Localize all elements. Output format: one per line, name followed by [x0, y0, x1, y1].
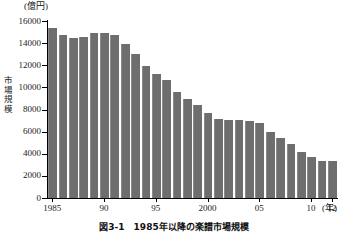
- bar: [110, 35, 119, 198]
- bar: [121, 44, 130, 198]
- bar: [297, 152, 306, 198]
- y-axis-tick-label: 2000: [23, 171, 41, 180]
- bar: [276, 138, 285, 198]
- x-axis-tick: [259, 199, 260, 202]
- bar: [152, 74, 161, 198]
- x-axis-tick: [104, 199, 105, 202]
- bar: [266, 132, 275, 198]
- y-axis-tick-label: 8000: [23, 105, 41, 114]
- x-axis-tick: [52, 199, 53, 202]
- bar: [90, 33, 99, 198]
- y-axis-tick: [42, 43, 47, 44]
- y-axis-tick: [42, 154, 47, 155]
- y-axis-tick-label: 14000: [19, 39, 42, 48]
- figure-caption: 図3-1 1985年以降の楽譜市場規模: [0, 222, 348, 232]
- x-axis-tick: [208, 199, 209, 202]
- x-axis-tick-label: 1985: [43, 203, 61, 213]
- y-axis-tick-label: 6000: [23, 127, 41, 136]
- x-axis-line: [47, 198, 338, 199]
- bar: [173, 92, 182, 198]
- bar: [235, 120, 244, 198]
- y-axis-tick: [42, 110, 47, 111]
- y-axis-tick: [42, 198, 47, 199]
- y-axis-tick-label: 10000: [19, 83, 42, 92]
- y-axis-tick: [42, 176, 47, 177]
- bar: [255, 123, 264, 198]
- x-axis-tick-label: 90: [99, 203, 108, 213]
- bar: [142, 66, 151, 198]
- bar: [131, 54, 140, 198]
- bar: [79, 37, 88, 199]
- y-axis-tick-label: 12000: [19, 61, 42, 70]
- bar: [48, 28, 57, 198]
- bar: [193, 105, 202, 198]
- bar-chart-figure: (億円) 市場規模 020004000600080001000012000140…: [0, 0, 348, 232]
- y-axis-tick: [42, 21, 47, 22]
- y-axis-tick: [42, 132, 47, 133]
- y-axis-tick-label: 0: [37, 194, 42, 203]
- x-axis-tick: [311, 199, 312, 202]
- y-axis-tick-label: 16000: [19, 17, 42, 26]
- bar: [318, 161, 327, 198]
- y-axis-tick-label: 4000: [23, 149, 41, 158]
- x-axis-tick-label: 10: [307, 203, 316, 213]
- bar: [100, 33, 109, 198]
- bar: [245, 121, 254, 198]
- x-axis-tick: [156, 199, 157, 202]
- bar: [162, 80, 171, 198]
- bar: [204, 113, 213, 198]
- plot-area: [47, 21, 337, 198]
- bar: [59, 35, 68, 198]
- y-axis-tick: [42, 65, 47, 66]
- bar: [287, 144, 296, 198]
- bar: [183, 99, 192, 198]
- y-axis-tick: [42, 87, 47, 88]
- x-axis-tick: [332, 199, 333, 202]
- bar: [69, 38, 78, 198]
- x-axis-tick-label: 12: [327, 203, 336, 213]
- bar: [214, 119, 223, 198]
- bar: [307, 157, 316, 198]
- x-axis-tick-label: 2000: [199, 203, 217, 213]
- x-axis-tick-label: 95: [151, 203, 160, 213]
- bar: [328, 161, 337, 198]
- x-axis-tick-label: 05: [255, 203, 264, 213]
- bar: [224, 120, 233, 198]
- y-axis-tick-labels: 0200040006000800010000120001400016000: [0, 0, 41, 232]
